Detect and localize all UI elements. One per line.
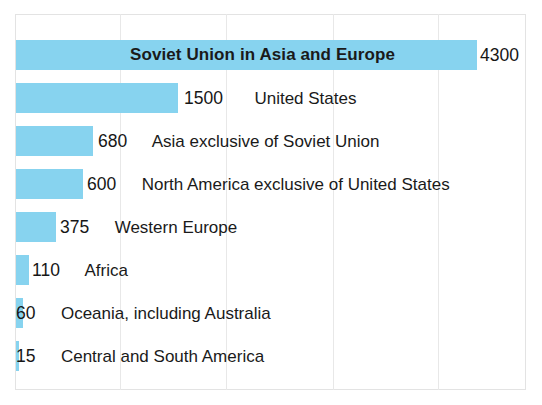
bar-row: 110 Africa [16, 249, 542, 291]
bar-row: 680 Asia exclusive of Soviet Union [16, 120, 542, 162]
bar-value-label: 15 [16, 346, 35, 366]
bar-rect [16, 83, 178, 113]
bar-row: 1500 United States [16, 77, 542, 119]
bar-category-label: Oceania, including Australia [61, 304, 271, 323]
bar-label-inline: Soviet Union in Asia and Europe [130, 40, 395, 70]
bar-label-inline: 110 Africa [32, 255, 128, 285]
bar-category-label: United States [254, 89, 356, 108]
bar-value-label: 600 [87, 174, 116, 194]
bar-category-label: Central and South America [61, 347, 264, 366]
bar-category-label: North America exclusive of United States [142, 175, 450, 194]
bar-row: 60 Oceania, including Australia [16, 292, 542, 334]
bar-value-label: 60 [16, 303, 35, 323]
bars-layer: Soviet Union in Asia and Europe 4300 150… [0, 0, 542, 405]
bar-label-inline: 680 Asia exclusive of Soviet Union [98, 126, 379, 156]
bar-label-inline: 60 Oceania, including Australia [16, 298, 271, 328]
bar-value-outside: 4300 [480, 40, 519, 70]
bar-label-inline: 375 Western Europe [60, 212, 237, 242]
bar-value-label: 375 [60, 217, 89, 237]
bar-category-label: Western Europe [115, 218, 238, 237]
bar-rect [16, 126, 93, 156]
bar-row: 600 North America exclusive of United St… [16, 163, 542, 205]
bar-category-label: Soviet Union in Asia and Europe [130, 45, 395, 64]
bar-row: 15 Central and South America [16, 335, 542, 377]
bar-row: Soviet Union in Asia and Europe 4300 [16, 34, 542, 76]
bar-rect [16, 169, 83, 199]
bar-value-label: 1500 [184, 88, 223, 108]
bar-value-label: 680 [98, 131, 127, 151]
bar-category-label: Africa [84, 261, 127, 280]
bar-label-inline: 15 Central and South America [16, 341, 264, 371]
bar-label-inline: 600 North America exclusive of United St… [87, 169, 450, 199]
bar-rect [16, 255, 29, 285]
bar-rect [16, 212, 56, 242]
bar-value-label: 4300 [480, 45, 519, 65]
bar-label-inline: 1500 United States [184, 83, 356, 113]
bar-value-label: 110 [32, 260, 60, 280]
bar-row: 375 Western Europe [16, 206, 542, 248]
bar-chart-figure: Soviet Union in Asia and Europe 4300 150… [0, 0, 542, 405]
bar-category-label: Asia exclusive of Soviet Union [152, 132, 380, 151]
